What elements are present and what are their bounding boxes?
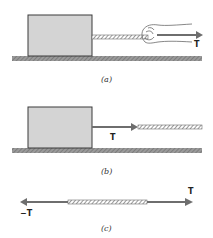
vector-label-c-right: T (188, 187, 194, 196)
panel-b: T (b) (12, 107, 202, 176)
block-a (28, 15, 92, 56)
vector-label-a: T (194, 40, 200, 49)
rope-a (92, 35, 148, 39)
arrowhead-right-icon (196, 31, 203, 39)
arrowhead-right-icon (131, 123, 138, 131)
hand-icon (142, 24, 192, 43)
arrowhead-right-icon (185, 198, 193, 206)
rope-b (138, 125, 202, 129)
vector-label-b: T (110, 133, 116, 142)
caption-a: (a) (101, 75, 112, 84)
rope-segment-c (68, 200, 147, 204)
floor-a (12, 56, 202, 61)
arrowhead-left-icon (20, 198, 27, 206)
caption-c: (c) (101, 224, 112, 233)
panel-c: T −T (c) (20, 187, 194, 233)
vector-label-c-left: −T (20, 209, 33, 218)
block-b (28, 107, 92, 148)
caption-b: (b) (101, 167, 112, 176)
panel-a: T (a) (12, 15, 203, 84)
tension-diagram: T (a) T (b) T −T (c) (0, 0, 213, 238)
floor-b (12, 148, 202, 153)
